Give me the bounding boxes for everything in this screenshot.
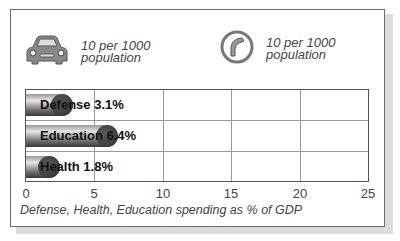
car-icon bbox=[25, 35, 69, 69]
chart-caption: Defense, Health, Education spending as %… bbox=[20, 203, 302, 217]
stat-phones: 10 per 1000 population bbox=[220, 30, 335, 68]
x-tick: 25 bbox=[361, 186, 375, 201]
stat-cars: 10 per 1000 population bbox=[25, 35, 150, 69]
x-tick: 0 bbox=[22, 186, 29, 201]
gridline bbox=[26, 120, 368, 121]
phone-handset-icon bbox=[220, 30, 254, 68]
gridline bbox=[163, 90, 164, 181]
x-tick: 5 bbox=[90, 186, 97, 201]
bar-label-health: Health 1.8% bbox=[40, 159, 113, 174]
bar-chart-plot: Defense 3.1% Education 6.4% Health 1.8% bbox=[25, 89, 369, 182]
bar-label-defense: Defense 3.1% bbox=[40, 97, 124, 112]
x-tick: 20 bbox=[293, 186, 307, 201]
x-tick: 10 bbox=[156, 186, 170, 201]
gridline bbox=[300, 90, 301, 181]
gridline bbox=[26, 151, 368, 152]
stat-unit: population bbox=[81, 52, 150, 64]
gridline bbox=[231, 90, 232, 181]
bar-label-education: Education 6.4% bbox=[40, 128, 136, 143]
stat-unit: population bbox=[266, 49, 335, 61]
x-tick: 15 bbox=[224, 186, 238, 201]
